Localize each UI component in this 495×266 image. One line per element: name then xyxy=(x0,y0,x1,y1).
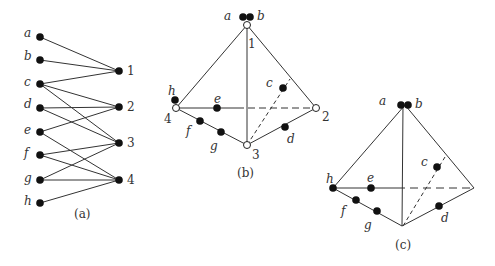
vertex-b xyxy=(36,56,44,64)
point-b xyxy=(246,13,254,21)
caption-a: (a) xyxy=(74,207,91,221)
label-1: 1 xyxy=(248,37,256,51)
caption-b: (b) xyxy=(237,166,254,180)
figure-canvas: a b c d e f g h 1 2 3 4 (a) xyxy=(0,0,495,266)
label-e: e xyxy=(24,123,31,137)
label-f: f xyxy=(185,124,193,138)
point-c xyxy=(279,84,287,92)
label-d: d xyxy=(287,132,295,146)
point-e xyxy=(367,184,375,192)
point-f xyxy=(196,117,204,125)
label-e: e xyxy=(367,171,374,185)
label-f: f xyxy=(23,146,31,160)
label-g: g xyxy=(24,171,32,185)
label-b: b xyxy=(415,97,423,111)
label-h: h xyxy=(326,172,334,186)
label-2: 2 xyxy=(127,100,135,114)
point-f xyxy=(352,196,360,204)
label-1: 1 xyxy=(127,64,135,78)
label-3: 3 xyxy=(127,136,135,150)
caption-c: (c) xyxy=(395,238,411,252)
label-g: g xyxy=(210,139,218,153)
label-g: g xyxy=(364,218,372,232)
figure-a-bipartite-graph: a b c d e f g h 1 2 3 4 (a) xyxy=(23,26,135,221)
label-d: d xyxy=(441,211,449,225)
vertex-4 xyxy=(173,105,180,112)
label-4: 4 xyxy=(127,173,135,187)
point-g xyxy=(373,207,381,215)
point-d xyxy=(281,123,289,131)
label-4: 4 xyxy=(164,112,172,126)
vertex-4 xyxy=(115,176,123,184)
label-c: c xyxy=(421,155,428,169)
vertex-e xyxy=(36,128,44,136)
point-g xyxy=(217,128,225,136)
label-b: b xyxy=(257,9,265,23)
vertex-c xyxy=(36,80,44,88)
label-c: c xyxy=(24,75,31,89)
label-c: c xyxy=(266,76,273,90)
vertex-a xyxy=(36,33,44,41)
left-labels: a b c d e f g h xyxy=(23,26,32,208)
label-h: h xyxy=(24,194,32,208)
vertex-h xyxy=(36,199,44,207)
right-vertices xyxy=(115,67,123,184)
vertex-1 xyxy=(244,22,251,29)
edges-a xyxy=(40,37,119,203)
vertex-1 xyxy=(115,67,123,75)
vertex-d xyxy=(36,104,44,112)
figure-b-tetrahedron: a b 1 h 4 e f g 3 d 2 c (b) xyxy=(164,9,330,180)
label-f: f xyxy=(340,204,348,218)
figure-c-tetrahedron: a b h e f g d c (c) xyxy=(326,94,474,252)
vertex-g xyxy=(36,176,44,184)
vertex-2 xyxy=(115,103,123,111)
point-d xyxy=(435,202,443,210)
label-2: 2 xyxy=(322,110,330,124)
point-a xyxy=(397,101,405,109)
point-c xyxy=(433,163,441,171)
label-3: 3 xyxy=(252,148,260,162)
right-labels: 1 2 3 4 xyxy=(127,64,135,187)
label-h: h xyxy=(168,84,176,98)
label-b: b xyxy=(24,49,32,63)
left-vertices xyxy=(36,33,44,207)
label-a: a xyxy=(24,26,31,40)
label-a: a xyxy=(224,9,231,23)
vertex-f xyxy=(36,151,44,159)
point-b xyxy=(404,101,412,109)
vertex-3 xyxy=(115,139,123,147)
label-d: d xyxy=(24,97,32,111)
vertex-2 xyxy=(313,105,320,112)
label-e: e xyxy=(214,92,221,106)
vertex-3 xyxy=(244,142,251,149)
label-a: a xyxy=(379,94,386,108)
point-a xyxy=(239,13,247,21)
